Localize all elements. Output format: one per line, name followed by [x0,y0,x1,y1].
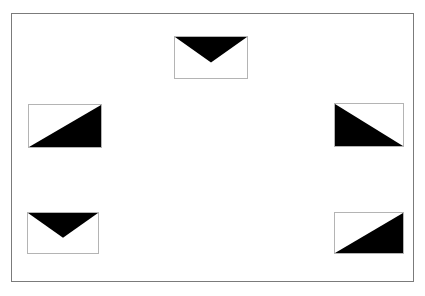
lower-right-triangle-icon [29,105,101,147]
shape-tile-bottom-right [334,212,404,254]
triangle-shape [29,105,101,147]
triangle-shape [335,213,403,253]
triangle-shape [175,37,247,62]
downward-triangle-icon [175,37,247,78]
lower-left-triangle-icon [335,104,403,146]
shape-tile-bottom-left [27,212,99,254]
outer-border-frame [11,13,414,282]
shape-tile-middle-right [334,103,404,147]
figure-canvas [0,0,425,296]
shape-tile-top-center [174,36,248,79]
downward-triangle-icon [28,213,98,253]
triangle-shape [28,213,98,238]
lower-right-triangle-icon [335,213,403,253]
triangle-shape [335,104,403,146]
shape-tile-middle-left [28,104,102,148]
